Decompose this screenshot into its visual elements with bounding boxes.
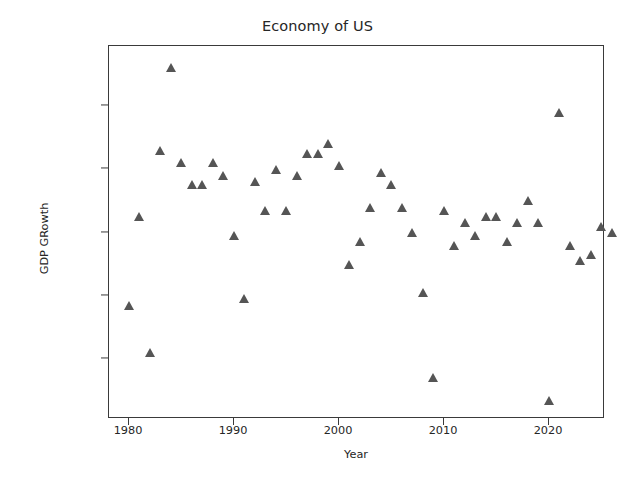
x-tick-label: 1980	[93, 424, 163, 437]
scatter-point	[386, 180, 396, 189]
scatter-point	[554, 108, 564, 117]
scatter-point	[439, 206, 449, 215]
matplotlib-figure: Economy of US GDP GRowth Year −0.020.000…	[0, 0, 635, 477]
y-tick-mark	[101, 168, 108, 169]
scatter-point	[607, 228, 617, 237]
y-tick-mark	[101, 357, 108, 358]
scatter-point	[491, 212, 501, 221]
scatter-point	[260, 206, 270, 215]
scatter-point	[155, 146, 165, 155]
scatter-point	[271, 165, 281, 174]
scatter-point	[134, 212, 144, 221]
scatter-point	[428, 373, 438, 382]
scatter-point	[365, 203, 375, 212]
scatter-point	[397, 203, 407, 212]
scatter-point	[544, 396, 554, 405]
scatter-point	[334, 161, 344, 170]
scatter-point	[302, 149, 312, 158]
scatter-point	[596, 222, 606, 231]
scatter-point	[313, 149, 323, 158]
scatter-point	[481, 212, 491, 221]
scatter-point	[229, 231, 239, 240]
scatter-point	[208, 158, 218, 167]
scatter-point	[124, 301, 134, 310]
scatter-point	[176, 158, 186, 167]
scatter-point	[586, 250, 596, 259]
scatter-point	[565, 241, 575, 250]
scatter-point	[323, 139, 333, 148]
scatter-point	[460, 218, 470, 227]
scatter-point	[376, 168, 386, 177]
x-tick-label: 2000	[303, 424, 373, 437]
x-tick-label: 2020	[513, 424, 583, 437]
y-tick-mark	[101, 231, 108, 232]
plot-area	[108, 45, 604, 418]
scatter-point	[418, 288, 428, 297]
scatter-point	[145, 348, 155, 357]
scatter-point	[166, 63, 176, 72]
scatter-point	[355, 237, 365, 246]
scatter-point	[502, 237, 512, 246]
scatter-point	[187, 180, 197, 189]
y-tick-mark	[101, 104, 108, 105]
scatter-point	[575, 256, 585, 265]
x-tick-label: 1990	[198, 424, 268, 437]
scatter-point	[533, 218, 543, 227]
scatter-point	[523, 196, 533, 205]
scatter-point	[292, 171, 302, 180]
scatter-point	[512, 218, 522, 227]
scatter-point	[407, 228, 417, 237]
scatter-point	[470, 231, 480, 240]
scatter-point	[449, 241, 459, 250]
y-tick-mark	[101, 294, 108, 295]
x-tick-label: 2010	[408, 424, 478, 437]
scatter-point	[197, 180, 207, 189]
scatter-point	[344, 260, 354, 269]
scatter-point	[281, 206, 291, 215]
scatter-point	[239, 294, 249, 303]
scatter-point	[218, 171, 228, 180]
scatter-point	[250, 177, 260, 186]
